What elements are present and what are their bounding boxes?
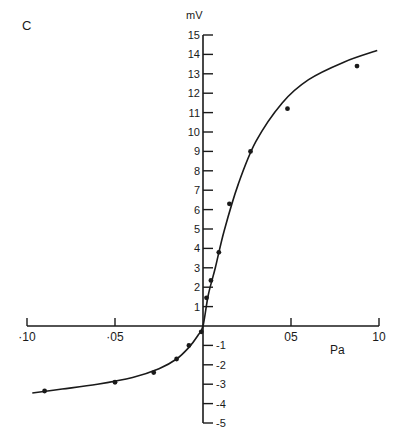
x-tick-label: ·10 bbox=[18, 330, 36, 344]
y-tick-label: 7 bbox=[194, 184, 200, 196]
y-tick-label: 3 bbox=[194, 262, 200, 274]
data-point bbox=[187, 343, 192, 348]
data-point bbox=[248, 149, 253, 154]
y-tick-label: 5 bbox=[194, 223, 200, 235]
data-point bbox=[174, 357, 179, 362]
y-tick-label: -5 bbox=[216, 417, 226, 429]
fitted-curve-path bbox=[32, 51, 377, 393]
chart-plot: ·10·050510-5-4-3-2-112345678910111213141… bbox=[0, 0, 397, 435]
data-point bbox=[285, 106, 290, 111]
y-tick-label: -2 bbox=[216, 359, 226, 371]
y-tick-label: 4 bbox=[194, 242, 200, 254]
y-tick-label: 11 bbox=[189, 107, 200, 119]
data-points bbox=[42, 64, 359, 394]
data-point bbox=[42, 389, 47, 394]
y-tick-label: 6 bbox=[194, 204, 200, 216]
data-point bbox=[216, 250, 221, 255]
y-tick-label: 15 bbox=[188, 29, 200, 41]
x-tick-label: 05 bbox=[284, 330, 298, 344]
y-tick-label: 9 bbox=[194, 145, 200, 157]
x-tick-label: ·05 bbox=[106, 330, 124, 344]
y-tick-label: 10 bbox=[188, 126, 200, 138]
data-point bbox=[355, 64, 360, 69]
x-tick-label: 10 bbox=[372, 330, 386, 344]
y-tick-label: -4 bbox=[216, 398, 226, 410]
data-point bbox=[113, 380, 118, 385]
y-tick-label: 12 bbox=[188, 87, 200, 99]
data-point bbox=[151, 370, 156, 375]
data-point bbox=[204, 295, 209, 300]
y-tick-label: 14 bbox=[188, 48, 200, 60]
data-point bbox=[199, 329, 204, 334]
fitted-curve bbox=[32, 51, 377, 393]
axes: ·10·050510-5-4-3-2-112345678910111213141… bbox=[18, 29, 386, 429]
y-tick-label: 1 bbox=[194, 301, 200, 313]
y-tick-label: 2 bbox=[194, 281, 200, 293]
y-tick-label: 13 bbox=[188, 68, 200, 80]
y-tick-label: 8 bbox=[194, 165, 200, 177]
y-tick-label: -3 bbox=[216, 378, 226, 390]
y-tick-label: -1 bbox=[216, 339, 226, 351]
data-point bbox=[227, 201, 232, 206]
data-point bbox=[209, 278, 214, 283]
